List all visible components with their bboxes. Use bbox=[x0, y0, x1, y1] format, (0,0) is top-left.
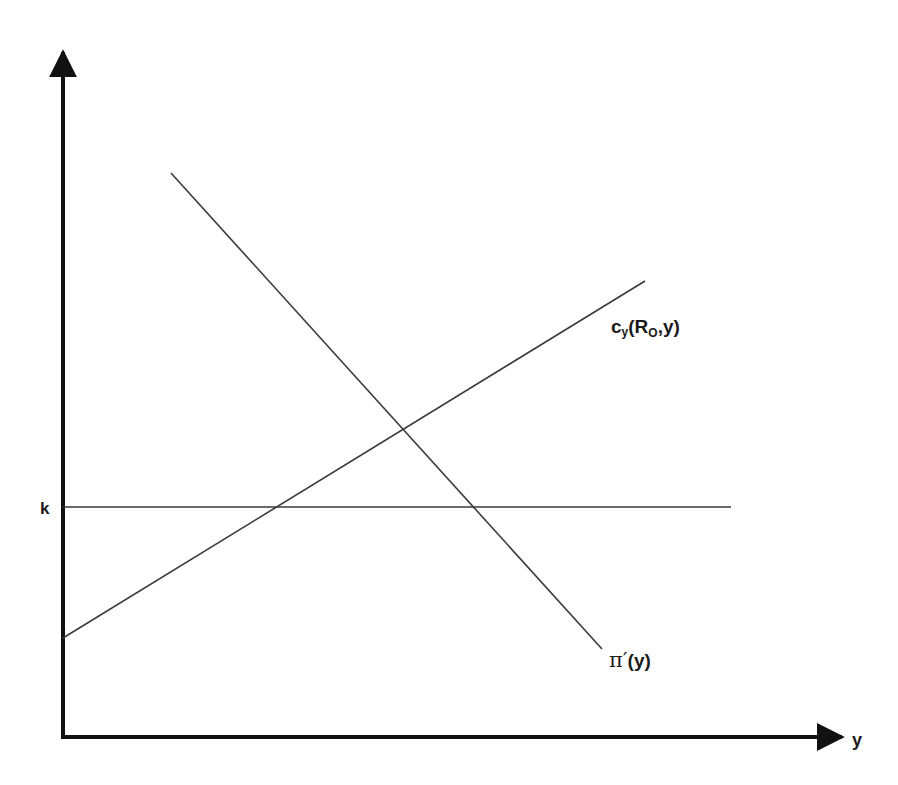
pi-prime-label: π′(y) bbox=[609, 648, 651, 672]
k-label: k bbox=[40, 499, 50, 518]
pi-prime-line bbox=[171, 173, 602, 649]
cy-label: cy(RO,y) bbox=[611, 316, 680, 340]
diagram-canvas: y k cy(RO,y) π′(y) bbox=[0, 0, 898, 785]
x-axis-label: y bbox=[852, 730, 862, 750]
cy-line bbox=[63, 281, 645, 638]
